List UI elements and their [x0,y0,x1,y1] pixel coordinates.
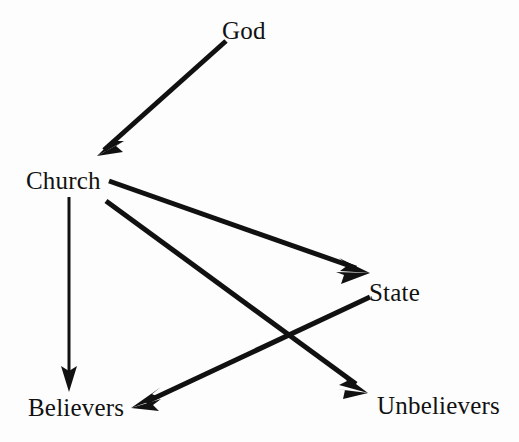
edge-god-to-church [97,41,226,156]
node-label-church: Church [26,168,101,193]
edge-church-to-unbelievers [106,201,368,399]
node-label-god: God [222,18,266,43]
diagram-canvas: God Church State Believers Unbelievers [0,0,519,442]
diagram-edges-layer [0,0,519,442]
node-label-unbelievers: Unbelievers [377,393,500,418]
node-label-state: State [369,280,420,305]
node-label-believers: Believers [28,395,124,420]
edge-state-to-believers [131,297,370,411]
edge-church-to-believers [61,197,77,392]
